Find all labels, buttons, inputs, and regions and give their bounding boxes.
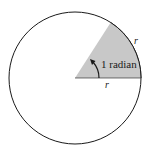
radius-label: r — [105, 79, 109, 90]
arc-label: r — [134, 35, 138, 46]
angle-label: 1 radian — [101, 58, 137, 70]
radian-diagram: 1 radian r r — [0, 0, 148, 152]
